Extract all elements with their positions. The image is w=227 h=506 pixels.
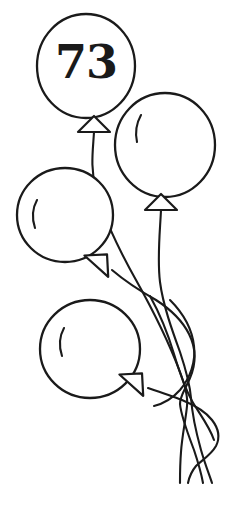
illustration-canvas: 73 (0, 0, 227, 506)
balloon-number-label: 73 (55, 35, 117, 89)
balloon-1[interactable]: 73 (37, 14, 135, 132)
balloon-4-body (40, 300, 140, 398)
string-cross-strand (150, 296, 214, 440)
balloon-4[interactable] (40, 300, 154, 398)
balloon-2[interactable] (115, 93, 215, 210)
balloon-2-body (115, 93, 215, 197)
balloons-drawing: 73 (0, 0, 227, 506)
balloon-3-body (17, 168, 113, 262)
string-balloon-2 (159, 210, 212, 483)
balloon-3[interactable] (17, 168, 119, 277)
